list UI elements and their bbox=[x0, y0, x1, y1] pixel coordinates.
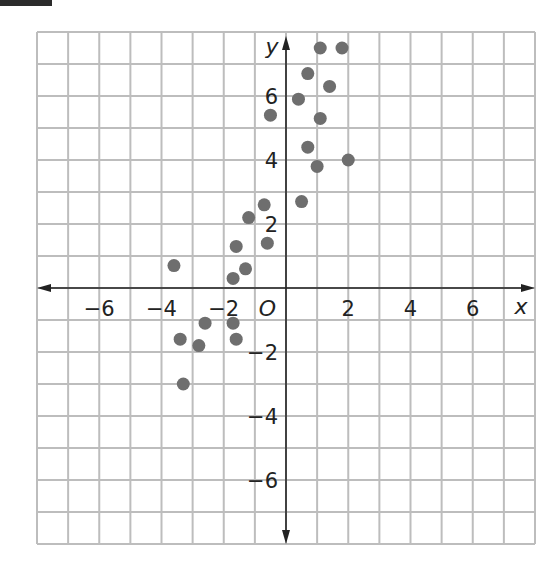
data-point bbox=[295, 195, 308, 208]
data-point bbox=[314, 42, 327, 55]
data-point bbox=[199, 317, 212, 330]
data-point bbox=[261, 237, 274, 250]
data-point bbox=[292, 93, 305, 106]
y-axis-down-arrow-icon bbox=[282, 530, 290, 544]
data-point bbox=[301, 67, 314, 80]
axes bbox=[37, 36, 535, 544]
tick-labels: −6−4−2246642−2−4−6Oxy bbox=[84, 34, 529, 493]
data-point bbox=[264, 109, 277, 122]
data-point bbox=[230, 240, 243, 253]
x-axis-right-arrow-icon bbox=[521, 284, 535, 292]
y-tick-label: 6 bbox=[265, 85, 278, 109]
x-tick-label: −4 bbox=[146, 297, 177, 321]
x-tick-label: −6 bbox=[84, 297, 115, 321]
data-point bbox=[242, 211, 255, 224]
data-point bbox=[174, 333, 187, 346]
y-tick-label: −6 bbox=[247, 469, 278, 493]
data-points bbox=[167, 42, 354, 391]
data-point bbox=[239, 262, 252, 275]
scatter-plot: −6−4−2246642−2−4−6Oxy bbox=[0, 0, 553, 576]
origin-label: O bbox=[259, 296, 276, 321]
x-tick-label: 4 bbox=[404, 297, 417, 321]
data-point bbox=[177, 378, 190, 391]
data-point bbox=[301, 141, 314, 154]
y-tick-label: 4 bbox=[265, 149, 278, 173]
data-point bbox=[314, 112, 327, 125]
x-tick-label: 2 bbox=[342, 297, 355, 321]
data-point bbox=[258, 198, 271, 211]
data-point bbox=[230, 333, 243, 346]
y-tick-label: −4 bbox=[247, 405, 278, 429]
x-tick-label: 6 bbox=[466, 297, 479, 321]
y-axis-up-arrow-icon bbox=[282, 36, 290, 50]
y-tick-label: 2 bbox=[265, 213, 278, 237]
data-point bbox=[342, 154, 355, 167]
x-axis-label: x bbox=[513, 294, 528, 319]
x-axis-left-arrow-icon bbox=[37, 284, 51, 292]
data-point bbox=[336, 42, 349, 55]
y-axis-label: y bbox=[264, 34, 279, 59]
data-point bbox=[192, 339, 205, 352]
data-point bbox=[227, 317, 240, 330]
data-point bbox=[311, 160, 324, 173]
data-point bbox=[167, 259, 180, 272]
y-tick-label: −2 bbox=[247, 341, 278, 365]
data-point bbox=[323, 80, 336, 93]
data-point bbox=[227, 272, 240, 285]
